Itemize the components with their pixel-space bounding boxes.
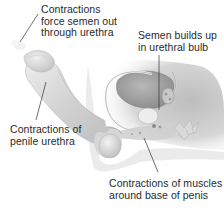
label-line: Semen builds up — [138, 30, 217, 42]
label-base-muscles: Contractions of muscles around base of p… — [109, 178, 222, 201]
label-urethral-bulb: Semen builds up in urethral bulb — [138, 30, 217, 53]
label-line: Contractions of muscles — [109, 178, 222, 190]
leader-line-urethra-force — [20, 14, 38, 42]
label-line: Contractions — [41, 4, 117, 16]
prostate — [138, 108, 158, 124]
testis — [94, 126, 122, 158]
semen-spray — [11, 40, 26, 50]
label-line: Contractions of — [10, 124, 81, 136]
label-line: around base of penis — [109, 190, 222, 202]
label-penile-urethra: Contractions of penile urethra — [10, 124, 81, 147]
label-line: in urethral bulb — [138, 42, 217, 54]
anatomy-diagram: Contractions force semen out through ure… — [0, 0, 224, 210]
seminal-vesicles — [162, 88, 174, 104]
label-line: penile urethra — [10, 136, 81, 148]
label-line: through urethra — [41, 27, 117, 39]
label-urethra-force: Contractions force semen out through ure… — [41, 4, 117, 39]
